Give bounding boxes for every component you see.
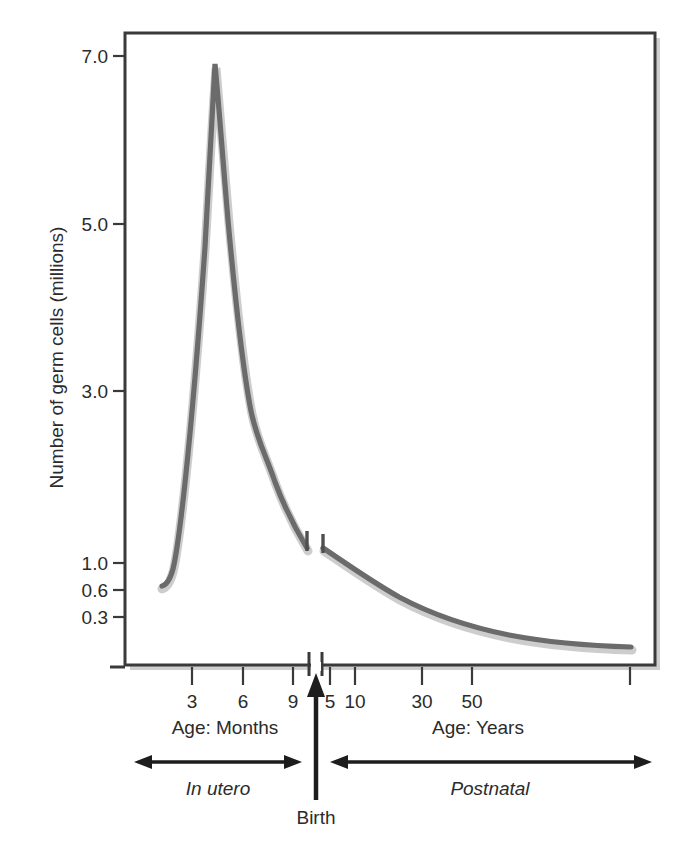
x-tick-label-month-6: 6 — [223, 692, 263, 711]
y-tick-label-0-3: 0.3 — [48, 608, 108, 627]
chart-canvas — [0, 0, 691, 844]
y-tick-label-3: 3.0 — [48, 382, 108, 401]
y-axis-title: Number of germ cells (millions) — [47, 208, 66, 508]
x-tick-label-month-9: 9 — [273, 692, 313, 711]
plot-frame — [125, 33, 655, 665]
y-tick-label-1: 1.0 — [48, 554, 108, 573]
postnatal-arrow-head-left — [330, 755, 348, 769]
x-tick-label-year-10: 10 — [335, 692, 375, 711]
birth-label: Birth — [276, 808, 356, 827]
x-axis-caption-months: Age: Months — [145, 718, 305, 737]
x-tick-label-month-3: 3 — [172, 692, 212, 711]
y-tick-label-0-6: 0.6 — [48, 581, 108, 600]
postnatal-bracket-arrow — [330, 755, 652, 769]
y-tick-label-7: 7.0 — [48, 47, 108, 66]
x-axis-caption-years: Age: Years — [398, 718, 558, 737]
postnatal-arrow-head-right — [634, 755, 652, 769]
y-tick-label-5: 5.0 — [48, 215, 108, 234]
x-tick-label-year-30: 30 — [402, 692, 442, 711]
in-utero-arrow-head-left — [134, 755, 152, 769]
in-utero-bracket-arrow — [134, 755, 302, 769]
in-utero-label: In utero — [148, 779, 288, 798]
axis-break-gap — [311, 662, 321, 671]
postnatal-label: Postnatal — [420, 779, 560, 798]
germ-cell-chart-figure: Number of germ cells (millions) 7.0 5.0 … — [0, 0, 691, 844]
in-utero-arrow-head-right — [284, 755, 302, 769]
y-axis-ticks — [113, 56, 125, 617]
x-tick-label-year-50: 50 — [452, 692, 492, 711]
